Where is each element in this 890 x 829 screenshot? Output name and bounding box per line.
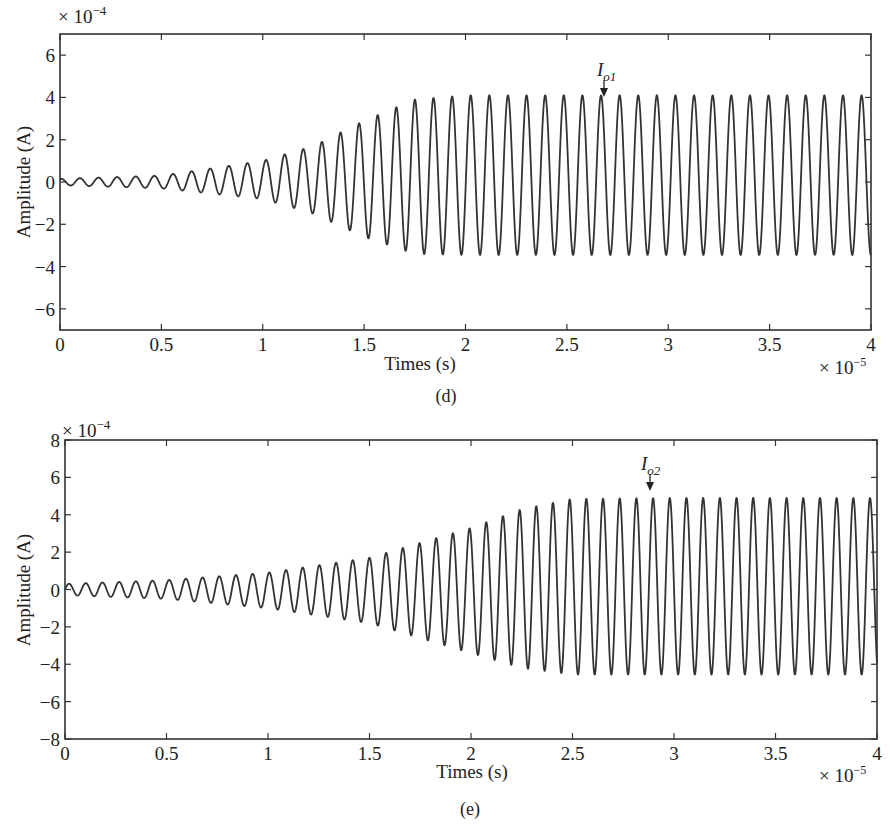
chart-panel-e: 00.511.522.533.54−8−6−4−202468 × 10−4 × … [13, 417, 882, 820]
y-axis-label: Amplitude (A) [13, 534, 35, 646]
y-axis-label: Amplitude (A) [13, 126, 35, 238]
y-tick-label: 8 [51, 430, 61, 451]
x-tick-label: 3.5 [758, 334, 782, 355]
x-tick-label: 0 [60, 743, 70, 764]
annotation-label: Io1 [596, 59, 616, 84]
x-axis-label: Times (s) [436, 761, 508, 783]
y-tick-label: 4 [51, 505, 61, 526]
chart-panel-d: 00.511.522.533.54−6−4−20246 × 10−4 × 10−… [13, 3, 876, 407]
x-tick-label: 4 [866, 334, 876, 355]
x-tick-label: 1 [258, 334, 268, 355]
x-multiplier: × 10−5 [819, 355, 866, 378]
panel-caption: (d) [436, 386, 457, 407]
x-tick-label: 1 [263, 743, 273, 764]
x-tick-label: 0 [55, 334, 65, 355]
y-tick-label: −6 [35, 299, 55, 320]
annotation-io2: Io2 [640, 453, 661, 491]
annotation-io1: Io1 [596, 59, 616, 97]
x-tick-label: 2.5 [561, 743, 585, 764]
x-tick-label: 3 [669, 743, 679, 764]
y-tick-label: −2 [35, 214, 55, 235]
signal-line-io1 [60, 95, 871, 255]
x-tick-label: 4 [872, 743, 882, 764]
panel-caption: (e) [460, 799, 480, 820]
y-multiplier: × 10−4 [62, 417, 111, 441]
x-tick-label: 2 [461, 334, 471, 355]
x-multiplier: × 10−5 [819, 763, 866, 786]
y-tick-label: −4 [35, 257, 56, 278]
signal-line-io2 [65, 498, 877, 675]
figure: 00.511.522.533.54−6−4−20246 × 10−4 × 10−… [0, 0, 890, 829]
y-tick-label: −4 [40, 654, 61, 675]
axis-ticks: 00.511.522.533.54−8−6−4−202468 [40, 430, 882, 764]
arrow-down-icon [646, 482, 654, 491]
y-tick-label: −2 [40, 617, 60, 638]
y-tick-label: −6 [40, 692, 60, 713]
y-tick-label: 4 [46, 87, 56, 108]
y-tick-label: 2 [46, 130, 56, 151]
y-tick-label: 6 [51, 467, 61, 488]
axis-ticks: 00.511.522.533.54−6−4−20246 [35, 34, 876, 355]
x-tick-label: 2.5 [555, 334, 579, 355]
x-axis-label: Times (s) [384, 353, 456, 375]
x-tick-label: 1.5 [358, 743, 382, 764]
y-tick-label: −8 [40, 729, 60, 750]
x-tick-label: 3 [664, 334, 674, 355]
x-tick-label: 0.5 [150, 334, 174, 355]
y-tick-label: 0 [51, 580, 61, 601]
x-tick-label: 1.5 [352, 334, 376, 355]
y-tick-label: 2 [51, 542, 61, 563]
y-tick-label: 0 [46, 172, 56, 193]
x-tick-label: 3.5 [764, 743, 788, 764]
y-multiplier: × 10−4 [58, 3, 107, 27]
plot-frame [65, 440, 877, 739]
y-tick-label: 6 [46, 45, 56, 66]
x-tick-label: 0.5 [155, 743, 179, 764]
